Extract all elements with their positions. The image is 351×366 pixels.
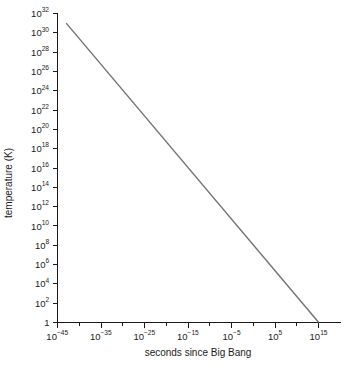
y-tick-label: 1030 — [31, 26, 49, 39]
x-tick-label: 10−35 — [90, 329, 112, 342]
y-tick-label: 108 — [35, 238, 50, 251]
y-tick-label: 1018 — [31, 141, 49, 154]
x-tick-label: 105 — [268, 329, 283, 342]
svg-text:5: 5 — [279, 329, 283, 336]
y-tick-label: 1020 — [31, 122, 49, 135]
chart-canvas: 1032103010281026102410221020101810161014… — [0, 0, 351, 366]
svg-text:10: 10 — [35, 278, 46, 289]
svg-text:28: 28 — [42, 45, 50, 52]
svg-text:18: 18 — [42, 141, 50, 148]
svg-text:10: 10 — [42, 219, 50, 226]
svg-text:26: 26 — [42, 64, 50, 71]
svg-text:16: 16 — [42, 161, 50, 168]
y-tick-label: 1016 — [31, 161, 49, 174]
x-tick-label: 10−15 — [177, 329, 199, 342]
y-tick-label: 1 — [44, 317, 49, 328]
data-series-group — [66, 23, 319, 322]
y-tick-label: 1012 — [31, 199, 49, 212]
svg-text:10: 10 — [35, 298, 46, 309]
y-tick-label: 1014 — [31, 180, 49, 193]
x-axis-title: seconds since Big Bang — [145, 347, 252, 358]
y-tick-label: 1024 — [31, 84, 49, 97]
svg-text:14: 14 — [42, 180, 50, 187]
svg-text:10: 10 — [31, 201, 42, 212]
svg-text:10: 10 — [31, 105, 42, 116]
y-tick-label: 1028 — [31, 45, 49, 58]
y-tick-label: 1032 — [31, 6, 49, 19]
svg-text:10: 10 — [31, 124, 42, 135]
svg-text:30: 30 — [42, 26, 50, 33]
y-tick-label: 1010 — [31, 219, 49, 232]
y-axis-ticks — [53, 14, 58, 323]
data-line — [66, 23, 319, 322]
svg-text:6: 6 — [46, 257, 50, 264]
svg-text:−5: −5 — [233, 329, 241, 336]
plot-area: 1032103010281026102410221020101810161014… — [31, 6, 340, 341]
x-axis-ticks — [58, 323, 319, 328]
x-tick-label: 10−5 — [222, 329, 240, 342]
svg-text:10: 10 — [90, 331, 101, 342]
y-tick-label: 1022 — [31, 103, 49, 116]
svg-text:10: 10 — [268, 331, 279, 342]
svg-text:24: 24 — [42, 84, 50, 91]
svg-text:−25: −25 — [144, 329, 156, 336]
svg-text:10: 10 — [133, 331, 144, 342]
x-tick-label: 1015 — [310, 329, 328, 342]
x-axis-tick-labels: 10−4510−3510−2510−1510−51051015 — [46, 329, 327, 342]
y-tick-label: 106 — [35, 257, 50, 270]
svg-text:10: 10 — [31, 163, 42, 174]
svg-text:10: 10 — [46, 331, 57, 342]
svg-text:10: 10 — [31, 8, 42, 19]
svg-text:22: 22 — [42, 103, 50, 110]
svg-text:10: 10 — [31, 221, 42, 232]
svg-text:10: 10 — [31, 47, 42, 58]
svg-text:8: 8 — [46, 238, 50, 245]
svg-text:10: 10 — [31, 143, 42, 154]
svg-text:10: 10 — [35, 240, 46, 251]
chart-figure: 1032103010281026102410221020101810161014… — [0, 0, 351, 366]
svg-text:20: 20 — [42, 122, 50, 129]
svg-text:10: 10 — [31, 85, 42, 96]
y-axis-title: temperature (K) — [3, 148, 14, 218]
svg-text:−35: −35 — [100, 329, 112, 336]
svg-text:−45: −45 — [57, 329, 69, 336]
svg-text:10: 10 — [31, 27, 42, 38]
svg-text:12: 12 — [42, 199, 50, 206]
svg-text:4: 4 — [46, 277, 50, 284]
svg-text:10: 10 — [222, 331, 233, 342]
svg-text:10: 10 — [35, 259, 46, 270]
y-axis-tick-labels: 1032103010281026102410221020101810161014… — [31, 6, 49, 328]
svg-text:15: 15 — [320, 329, 328, 336]
y-tick-label: 1026 — [31, 64, 49, 77]
svg-text:32: 32 — [42, 6, 50, 13]
x-tick-label: 10−45 — [46, 329, 68, 342]
svg-text:10: 10 — [310, 331, 321, 342]
y-tick-label: 104 — [35, 277, 50, 290]
svg-text:2: 2 — [46, 296, 50, 303]
svg-text:10: 10 — [31, 182, 42, 193]
svg-text:−15: −15 — [188, 329, 200, 336]
svg-text:10: 10 — [177, 331, 188, 342]
y-tick-label: 102 — [35, 296, 50, 309]
svg-text:10: 10 — [31, 66, 42, 77]
svg-text:1: 1 — [44, 317, 49, 328]
x-tick-label: 10−25 — [133, 329, 155, 342]
